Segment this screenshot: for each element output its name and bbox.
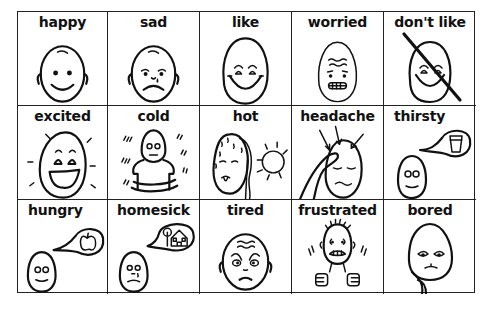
cell-frustrated: frustrated [292,200,384,294]
sad-face-icon [108,30,199,106]
cell-label: frustrated [292,200,383,220]
cell-label: excited [18,106,107,126]
cell-label: like [200,12,291,32]
cell-label: headache [292,106,383,126]
bored-face-icon [384,218,476,294]
cell-label: tired [200,200,291,220]
cell-thirsty: thirsty [384,106,476,200]
cell-label: homesick [108,200,199,220]
dont-like-face-icon [384,30,476,106]
tired-face-icon [200,218,291,294]
cell-label: hungry [18,200,107,220]
cell-homesick: homesick [108,200,200,294]
cell-cold: cold [108,106,200,200]
cell-label: bored [384,200,476,220]
cell-hungry: hungry [18,200,108,294]
cell-worried: worried [292,12,384,106]
cell-hot: hot [200,106,292,200]
cell-sad: sad [108,12,200,106]
cell-label: hot [200,106,291,126]
headache-face-icon [292,124,383,200]
excited-face-icon [18,124,107,200]
like-face-icon [200,30,291,106]
feelings-grid: happy sad like [17,11,475,293]
cell-label: don't like [384,12,476,32]
frustrated-person-icon [292,218,383,294]
cell-tired: tired [200,200,292,294]
hungry-face-apple-icon [18,218,107,294]
cell-headache: headache [292,106,384,200]
cell-bored: bored [384,200,476,294]
cell-happy: happy [18,12,108,106]
cell-dont-like: don't like [384,12,476,106]
cell-label: sad [108,12,199,32]
hot-face-sun-icon [200,124,291,200]
homesick-face-house-icon [108,218,199,294]
cold-person-icon [108,124,199,200]
cell-like: like [200,12,292,106]
cell-label: worried [292,12,383,32]
cell-excited: excited [18,106,108,200]
worried-face-icon [292,30,383,106]
happy-face-icon [18,30,107,106]
thirsty-face-glass-icon [384,124,476,200]
cell-label: cold [108,106,199,126]
cell-label: thirsty [384,106,476,126]
cell-label: happy [18,12,107,32]
